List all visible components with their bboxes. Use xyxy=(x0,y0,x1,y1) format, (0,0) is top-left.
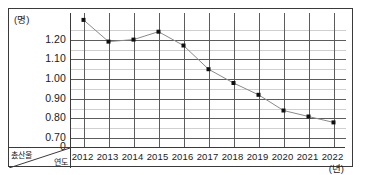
x-axis-tick-labels: (년) 201220132014201520162017201820192020… xyxy=(70,147,345,167)
plot-wrap xyxy=(70,13,345,147)
gridline-vertical xyxy=(159,13,160,147)
y-axis-tick-labels: 1.201.101.000.900.800.700 xyxy=(9,13,66,147)
gridline-vertical xyxy=(259,13,260,147)
x-axis-tick-label: 2012 xyxy=(72,151,94,162)
gridline-vertical xyxy=(109,13,110,147)
x-axis-tick-label: 2013 xyxy=(97,151,119,162)
y-axis-tick-label: 1.20 xyxy=(45,33,66,45)
corner-split-header-cell: 촜산울 연도 xyxy=(9,147,71,168)
y-axis-tick-label: 1.00 xyxy=(45,72,66,84)
x-axis-tick-label: 2017 xyxy=(197,151,219,162)
gridline-vertical xyxy=(309,13,310,147)
x-axis-tick-label: 2022 xyxy=(322,151,344,162)
gridline-vertical xyxy=(209,13,210,147)
gridline-vertical xyxy=(334,13,335,147)
corner-column-label: 연도 xyxy=(54,156,68,167)
y-axis-tick-label: 0.90 xyxy=(45,92,66,104)
gridline-vertical xyxy=(134,13,135,147)
x-axis-tick-label: 2015 xyxy=(147,151,169,162)
gridline-vertical xyxy=(84,13,85,147)
y-axis-tick-label: 1.10 xyxy=(45,52,66,64)
gridline-vertical xyxy=(234,13,235,147)
corner-row-label: 촜산울 xyxy=(11,149,32,160)
x-axis-tick-label: 2020 xyxy=(272,151,294,162)
x-axis-tick-label: 2014 xyxy=(122,151,144,162)
x-axis-tick-label: 2016 xyxy=(172,151,194,162)
x-axis-tick-label: 2019 xyxy=(247,151,269,162)
x-axis-tick-label: 2018 xyxy=(222,151,244,162)
y-axis-tick-label: 0.80 xyxy=(45,111,66,123)
fertility-rate-line-chart: (명) 1.201.101.000.900.800.700 (년) 201220… xyxy=(8,8,353,167)
gridline-vertical xyxy=(284,13,285,147)
x-axis-tick-label: 2021 xyxy=(297,151,319,162)
plot-area xyxy=(70,13,345,147)
x-axis-unit-label: (년) xyxy=(329,161,344,175)
gridline-vertical xyxy=(184,13,185,147)
